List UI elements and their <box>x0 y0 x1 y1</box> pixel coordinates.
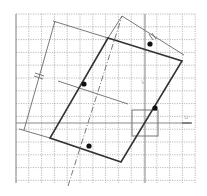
geometry-figure <box>0 0 207 196</box>
point-dot <box>152 105 157 110</box>
equal-mark-top-2 <box>152 33 156 39</box>
point-dot <box>86 143 91 148</box>
point-dot <box>147 41 152 46</box>
diagram-canvas: v u <box>0 0 207 196</box>
left-extension-top <box>53 21 108 38</box>
left-extension-bottom <box>19 129 50 138</box>
top-dimension-line <box>122 16 184 55</box>
center-label: v <box>141 78 145 86</box>
axis-label: u <box>184 113 188 121</box>
dimension-lines <box>19 16 184 186</box>
point-dot <box>81 81 86 86</box>
dash-dot-line <box>68 16 122 186</box>
left-dimension-line <box>24 21 55 130</box>
grid <box>16 14 195 183</box>
